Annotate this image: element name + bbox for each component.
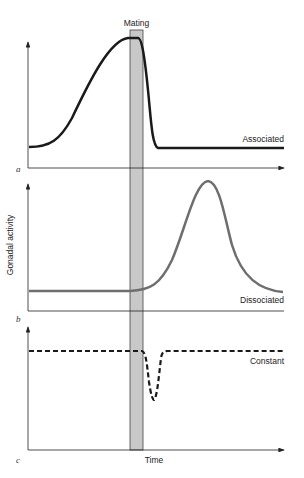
constant-curve xyxy=(29,351,284,400)
mating-bar xyxy=(130,30,143,450)
panel-a-letter: a xyxy=(16,164,21,174)
associated-curve xyxy=(29,38,284,148)
associated-label: Associated xyxy=(242,134,284,144)
dissociated-label: Dissociated xyxy=(240,295,284,305)
y-axis-label: Gonadal activity xyxy=(5,214,15,275)
panel-c-letter: c xyxy=(16,455,20,465)
x-axis-label: Time xyxy=(145,455,164,465)
panel-b-letter: b xyxy=(16,314,21,324)
gonadal-activity-diagram: Mating Associated a Dissociated b Gonada… xyxy=(0,0,304,478)
constant-label: Constant xyxy=(250,356,285,366)
mating-label: Mating xyxy=(124,18,150,28)
dissociated-curve xyxy=(29,181,283,292)
